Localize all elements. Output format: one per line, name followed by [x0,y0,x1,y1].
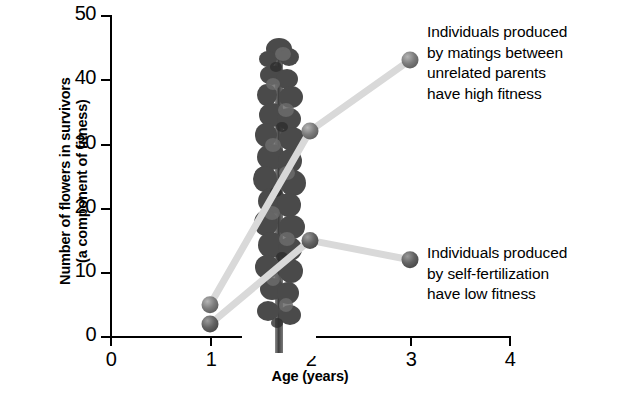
data-point-high-age2[interactable] [302,123,319,140]
annotation-high-fitness: Individuals produced by matings between … [427,22,627,104]
x-tick-1: 1 [210,336,212,346]
y-tick-label-50: 50 [75,3,96,23]
data-point-high-age3[interactable] [402,52,419,69]
x-tick-4: 4 [509,336,511,346]
x-tick-label-3: 3 [400,349,422,369]
data-point-low-age1[interactable] [202,316,219,333]
y-tick-10: 10 [101,272,110,274]
y-tick-label-10: 10 [75,260,96,280]
y-tick-0: 0 [101,336,110,338]
y-tick-40: 40 [101,79,110,81]
data-point-low-age3[interactable] [402,251,419,268]
y-tick-50: 50 [101,15,110,17]
y-tick-label-0: 0 [85,324,96,344]
data-point-high-age1[interactable] [202,296,219,313]
y-axis-title: Number of flowers in survivors (a compon… [57,11,91,351]
y-tick-20: 20 [101,208,110,210]
y-tick-label-30: 30 [75,132,96,152]
y-tick-30: 30 [101,144,110,146]
y-tick-label-20: 20 [75,196,96,216]
y-tick-label-40: 40 [75,67,96,87]
annotation-low-fitness: Individuals produced by self-fertilizati… [427,243,627,305]
x-tick-3: 3 [410,336,412,346]
data-point-low-age2[interactable] [302,232,319,249]
x-axis-title: Age (years) [110,368,510,384]
series-line-high-fitness [210,60,410,305]
x-tick-label-4: 4 [499,349,521,369]
x-tick-label-0: 0 [100,349,122,369]
x-tick-label-1: 1 [200,349,222,369]
x-tick-0: 0 [110,336,112,346]
